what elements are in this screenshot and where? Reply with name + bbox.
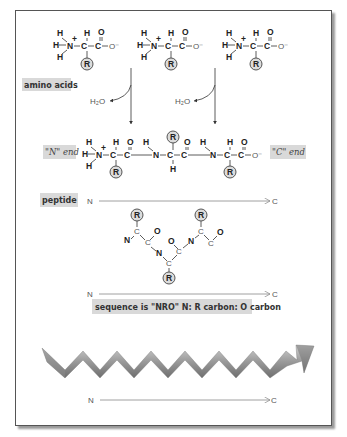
atom-o: O: [154, 226, 161, 236]
r-label: R: [84, 59, 90, 69]
axis-c-label: C: [272, 197, 278, 206]
n-to-c-axis-2: N C: [87, 290, 278, 299]
atom-h: H: [84, 28, 90, 38]
atom-n: N: [210, 150, 216, 160]
axis-n-label: N: [88, 396, 94, 405]
amino-acid-1: H H H + N H C O C O⁻ R: [53, 27, 119, 70]
atom-h: H: [113, 137, 119, 147]
amino-acids-label: amino acids: [24, 81, 78, 90]
atom-c: C: [124, 150, 130, 160]
atom-o-minus: O⁻: [109, 42, 119, 51]
atom-n: N: [124, 235, 130, 245]
atom-h: H: [227, 137, 233, 147]
atom-n: N: [67, 41, 73, 51]
atom-n: N: [96, 150, 102, 160]
atom-c: C: [81, 41, 87, 51]
atom-n: N: [151, 41, 157, 51]
atom-c: C: [264, 41, 270, 51]
atom-c: C: [95, 41, 101, 51]
atom-c: C: [110, 150, 116, 160]
atom-c: C: [167, 150, 173, 160]
axis-c-label: C: [272, 290, 278, 299]
atom-c: C: [224, 150, 230, 160]
c-end-label: "C" end: [272, 147, 306, 157]
r-label: R: [113, 167, 119, 177]
atom-o: O: [267, 27, 274, 37]
atom-h: H: [200, 137, 206, 147]
peptide-label: peptide: [42, 196, 77, 205]
n-end-label: "N" end: [45, 147, 79, 157]
atom-h: H: [53, 40, 59, 50]
water-label: H₂O: [90, 97, 105, 106]
r-label: R: [134, 210, 140, 220]
atom-c: C: [166, 259, 172, 268]
axis-n-label: N: [87, 197, 93, 206]
axis-n-label: N: [87, 290, 93, 299]
r-label: R: [168, 59, 174, 69]
atom-o: O: [182, 27, 189, 37]
atom-n: N: [156, 248, 162, 258]
atom-o: O: [184, 137, 191, 147]
water-label: H₂O: [175, 97, 190, 106]
atom-c: C: [179, 41, 185, 51]
atom-h: H: [143, 137, 149, 147]
backbone-ribbon-arrow: [42, 345, 314, 378]
axis-c-label: C: [271, 396, 277, 405]
atom-n: N: [153, 150, 159, 160]
tripeptide-structure: H H H + N H C R O C H N R C H O: [82, 131, 262, 178]
atom-o-minus: O⁻: [252, 151, 262, 160]
r-label: R: [227, 167, 233, 177]
atom-h: H: [168, 28, 174, 38]
atom-c: C: [165, 41, 171, 51]
r-label: R: [170, 132, 176, 142]
atom-c: C: [198, 227, 204, 236]
atom-h: H: [226, 28, 232, 38]
zigzag-backbone: R C N C O N C R C O N C R C O: [124, 209, 224, 284]
atom-h: H: [82, 149, 88, 159]
sequence-caption: sequence is "NRO" N: R carbon: O carbon: [95, 303, 281, 312]
peptide-diagram: H H H + N H C O C O⁻ R H H H + N H C O: [0, 0, 347, 437]
atom-o: O: [241, 137, 248, 147]
atom-o: O: [98, 27, 105, 37]
amino-acid-3: H H H + N H C O C O⁻ R: [222, 27, 288, 70]
atom-h: H: [86, 137, 92, 147]
amino-acid-2: H H H + N H C O C O⁻ R: [137, 27, 203, 70]
condensation-arrow-1: H₂O: [90, 68, 131, 124]
atom-h: H: [253, 28, 259, 38]
atom-c: C: [250, 41, 256, 51]
atom-h: H: [137, 40, 143, 50]
atom-c: C: [134, 227, 140, 236]
atom-h: H: [170, 164, 176, 174]
atom-h: H: [141, 28, 147, 38]
atom-o-minus: O⁻: [193, 42, 203, 51]
atom-h: H: [57, 28, 63, 38]
r-label: R: [253, 59, 259, 69]
atom-c: C: [181, 150, 187, 160]
n-to-c-axis-3: N C: [88, 396, 277, 405]
atom-n: N: [188, 236, 194, 246]
r-label: R: [166, 273, 172, 283]
n-to-c-axis-1: N C: [87, 197, 278, 206]
atom-o-minus: O⁻: [278, 42, 288, 51]
atom-c: C: [238, 150, 244, 160]
atom-o: O: [217, 227, 224, 237]
atom-h: H: [222, 40, 228, 50]
r-label: R: [198, 210, 204, 220]
atom-n: N: [236, 41, 242, 51]
atom-c: C: [208, 239, 214, 248]
atom-o: O: [127, 137, 134, 147]
condensation-arrow-2: H₂O: [175, 68, 215, 124]
atom-o: O: [168, 236, 175, 246]
